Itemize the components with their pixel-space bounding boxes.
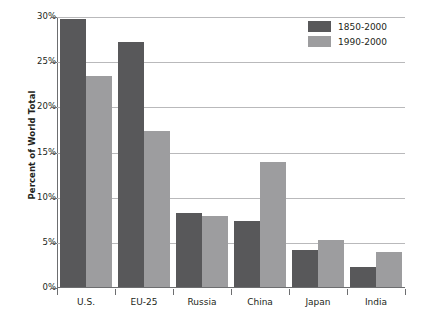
x-axis-tick-label: India xyxy=(331,297,421,307)
bar xyxy=(144,131,170,287)
bar xyxy=(376,252,402,287)
y-axis-tick-label: 20% xyxy=(16,102,56,111)
bar xyxy=(292,250,318,287)
bar xyxy=(202,216,228,287)
y-axis-tick-label: 15% xyxy=(16,148,56,157)
x-axis-tick-mark xyxy=(231,289,232,295)
x-axis-line xyxy=(57,287,405,288)
legend-item-label: 1990-2000 xyxy=(338,37,387,47)
bar xyxy=(234,221,260,287)
legend-swatch-icon xyxy=(308,21,331,32)
y-axis-tick-label: 30% xyxy=(16,12,56,21)
bar-chart: Percent of World Total 0%5%10%15%20%25%3… xyxy=(0,0,422,325)
y-axis-tick-label: 25% xyxy=(16,57,56,66)
bar xyxy=(318,240,344,287)
bar-group xyxy=(176,16,228,287)
x-axis-tick-mark xyxy=(57,289,58,295)
bar xyxy=(350,267,376,287)
bar xyxy=(60,19,86,287)
bar xyxy=(86,76,112,287)
y-axis-tick-label: 5% xyxy=(16,238,56,247)
bar-group xyxy=(234,16,286,287)
bar xyxy=(118,42,144,287)
bar-group xyxy=(60,16,112,287)
x-axis-tick-mark xyxy=(173,289,174,295)
x-axis-tick-mark xyxy=(115,289,116,295)
x-axis-tick-mark xyxy=(347,289,348,295)
y-axis-title: Percent of World Total xyxy=(27,55,37,235)
bar xyxy=(176,213,202,287)
bar-group xyxy=(118,16,170,287)
legend-item-label: 1850-2000 xyxy=(338,22,387,32)
legend: 1850-2000 1990-2000 xyxy=(308,20,387,50)
x-axis-tick-mark xyxy=(405,289,406,295)
legend-item: 1850-2000 xyxy=(308,20,387,33)
bar xyxy=(260,162,286,287)
legend-item: 1990-2000 xyxy=(308,35,387,48)
y-axis-tick-label: 10% xyxy=(16,193,56,202)
x-axis-tick-mark xyxy=(289,289,290,295)
bar-group xyxy=(350,16,402,287)
y-axis-tick-label: 0% xyxy=(16,283,56,292)
legend-swatch-icon xyxy=(308,36,331,47)
plot-area xyxy=(57,17,405,288)
figure-caption xyxy=(22,317,422,325)
bar-group xyxy=(292,16,344,287)
